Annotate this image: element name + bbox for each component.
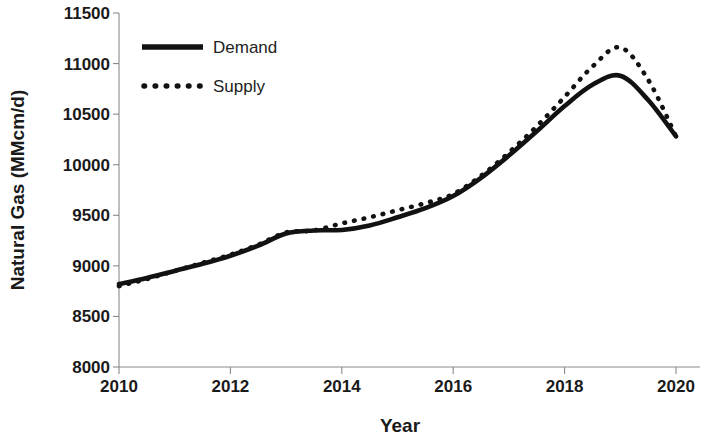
x-tick-label: 2014: [323, 377, 361, 396]
y-axis-title: Natural Gas (MMcm/d): [7, 90, 28, 291]
y-tick-label: 9500: [72, 206, 110, 225]
x-tick-label: 2018: [546, 377, 584, 396]
y-tick-label: 8500: [72, 307, 110, 326]
y-tick-label: 10000: [63, 156, 110, 175]
y-tick-label: 9000: [72, 257, 110, 276]
series-line-demand: [119, 75, 676, 284]
y-axis-tick-labels: 800085009000950010000105001100011500: [63, 4, 110, 377]
natural-gas-supply-demand-chart: Natural Gas (MMcm/d) Year 80008500900095…: [0, 0, 722, 439]
axis-lines: [119, 13, 700, 367]
x-tick-label: 2016: [434, 377, 472, 396]
legend: Demand Supply: [142, 38, 277, 96]
y-tick-label: 8000: [72, 358, 110, 377]
x-axis-tick-marks: [119, 367, 676, 374]
y-axis-title-group: Natural Gas (MMcm/d): [7, 90, 28, 291]
y-tick-label: 11500: [64, 4, 110, 23]
legend-label-supply: Supply: [213, 77, 265, 96]
x-tick-label: 2010: [100, 377, 138, 396]
y-axis-tick-marks: [113, 13, 119, 367]
x-axis-tick-labels: 201020122014201620182020: [100, 377, 695, 396]
legend-label-demand: Demand: [213, 38, 277, 57]
x-axis-title-group: Year: [380, 415, 421, 436]
y-tick-label: 10500: [63, 105, 110, 124]
plot-series-group: [119, 47, 676, 286]
x-tick-label: 2020: [657, 377, 695, 396]
y-tick-label: 11000: [64, 55, 110, 74]
x-axis-title: Year: [380, 415, 421, 436]
x-tick-label: 2012: [211, 377, 249, 396]
